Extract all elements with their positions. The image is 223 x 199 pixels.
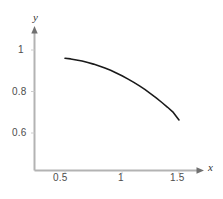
- x-tick-label-1.5: 1.5: [170, 172, 185, 183]
- x-tick-label-1: 1: [118, 172, 124, 183]
- x-axis-arrow-icon: [197, 167, 205, 173]
- plot-area: [0, 0, 223, 199]
- x-axis-label: x: [208, 161, 213, 173]
- y-tick-label-1: 1: [18, 44, 24, 55]
- y-axis-arrow-icon: [31, 26, 37, 34]
- x-tick-label-0.5: 0.5: [53, 172, 68, 183]
- y-axis-label: y: [33, 11, 38, 23]
- data-curve: [65, 58, 179, 120]
- chart-figure: 1 0.8 0.6 0.5 1 1.5 y x: [0, 0, 223, 199]
- y-tick-label-0.8: 0.8: [12, 86, 27, 97]
- y-tick-label-0.6: 0.6: [12, 127, 27, 138]
